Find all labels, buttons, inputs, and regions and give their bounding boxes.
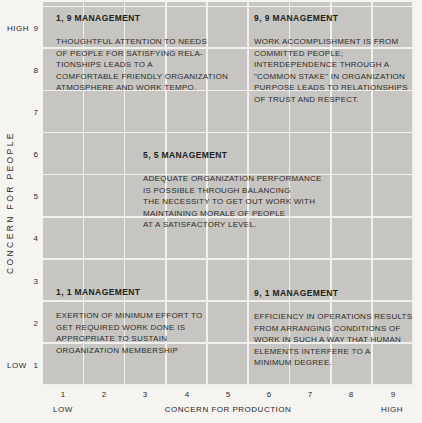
block-5-5-body: ADEQUATE ORGANIZATION PERFORMANCE IS POS… bbox=[143, 173, 348, 231]
block-9-1-body: EFFICIENCY IN OPERATIONS RESULTS FROM AR… bbox=[254, 311, 422, 369]
y-tick-9: 9 bbox=[26, 24, 38, 33]
y-tick-2: 2 bbox=[26, 319, 38, 328]
block-9-9-heading: 9, 9 MANAGEMENT bbox=[254, 13, 422, 23]
y-tick-5: 5 bbox=[26, 192, 38, 201]
block-1-9-management: 1, 9 MANAGEMENT THOUGHTFUL ATTENTION TO … bbox=[56, 13, 261, 94]
y-tick-1: 1 bbox=[26, 361, 38, 370]
block-5-5-heading: 5, 5 MANAGEMENT bbox=[143, 150, 348, 160]
block-1-1-heading: 1, 1 MANAGEMENT bbox=[56, 287, 261, 297]
x-axis-high-label: HIGH bbox=[381, 405, 403, 414]
block-1-9-body: THOUGHTFUL ATTENTION TO NEEDS OF PEOPLE … bbox=[56, 36, 261, 94]
x-tick-7: 7 bbox=[300, 390, 320, 399]
x-tick-2: 2 bbox=[94, 390, 114, 399]
x-tick-1: 1 bbox=[53, 390, 73, 399]
block-1-9-heading: 1, 9 MANAGEMENT bbox=[56, 13, 261, 23]
y-axis-label: CONCERN FOR PEOPLE bbox=[5, 113, 15, 293]
x-tick-4: 4 bbox=[177, 390, 197, 399]
managerial-grid-diagram: 1, 9 MANAGEMENT THOUGHTFUL ATTENTION TO … bbox=[0, 0, 422, 423]
y-tick-6: 6 bbox=[26, 150, 38, 159]
y-tick-4: 4 bbox=[26, 234, 38, 243]
block-9-1-heading: 9, 1 MANAGEMENT bbox=[254, 288, 422, 298]
x-tick-5: 5 bbox=[218, 390, 238, 399]
block-1-1-body: EXERTION OF MINIMUM EFFORT TO GET REQUIR… bbox=[56, 310, 261, 356]
block-9-9-management: 9, 9 MANAGEMENT WORK ACCOMPLISHMENT IS F… bbox=[254, 13, 422, 106]
x-axis-low-label: LOW bbox=[53, 405, 73, 414]
x-tick-8: 8 bbox=[341, 390, 361, 399]
grid-top-edge bbox=[43, 2, 414, 6]
y-tick-7: 7 bbox=[26, 108, 38, 117]
block-5-5-management: 5, 5 MANAGEMENT ADEQUATE ORGANIZATION PE… bbox=[143, 150, 348, 231]
block-1-1-management: 1, 1 MANAGEMENT EXERTION OF MINIMUM EFFO… bbox=[56, 287, 261, 356]
y-tick-8: 8 bbox=[26, 66, 38, 75]
x-tick-6: 6 bbox=[259, 390, 279, 399]
x-tick-3: 3 bbox=[135, 390, 155, 399]
y-tick-3: 3 bbox=[26, 277, 38, 286]
x-axis-label: CONCERN FOR PRODUCTION bbox=[108, 405, 348, 414]
x-tick-9: 9 bbox=[383, 390, 403, 399]
block-9-9-body: WORK ACCOMPLISHMENT IS FROM COMMITTED PE… bbox=[254, 36, 422, 106]
block-9-1-management: 9, 1 MANAGEMENT EFFICIENCY IN OPERATIONS… bbox=[254, 288, 422, 369]
